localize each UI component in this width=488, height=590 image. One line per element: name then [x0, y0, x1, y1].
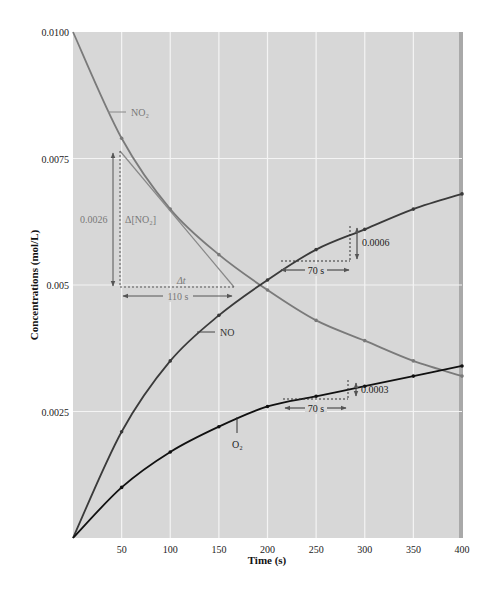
y-tick-label: 0.0075: [42, 154, 70, 165]
data-point: [120, 136, 124, 140]
delta-no2-label: Δ[NO₂]: [125, 214, 156, 225]
data-point: [460, 192, 464, 196]
data-point: [120, 486, 124, 490]
x-tick-label: 400: [455, 544, 470, 555]
x-tick-label: 350: [406, 544, 421, 555]
data-point: [266, 278, 270, 282]
data-point: [168, 359, 172, 363]
data-point: [412, 207, 416, 211]
data-point: [314, 248, 318, 252]
data-point: [460, 364, 464, 368]
x-axis-ticks: 50100150200250300350400: [117, 544, 470, 555]
y-axis-label: Concentrations (mol/L): [28, 230, 41, 341]
x-axis-label: Time (s): [248, 554, 287, 567]
delta-t-label: Δt: [176, 275, 186, 286]
y-tick-label: 0.0100: [42, 27, 70, 38]
data-point: [120, 430, 124, 434]
delta-no2-value: 0.0026: [80, 214, 108, 225]
data-point: [266, 288, 270, 292]
x-tick-label: 150: [211, 544, 226, 555]
no2-series-label: NO₂: [131, 107, 149, 118]
no2-time-interval: 110 s: [167, 291, 188, 302]
data-point: [314, 395, 318, 399]
o2-series-label: O₂: [232, 439, 243, 450]
x-tick-label: 250: [309, 544, 324, 555]
y-tick-label: 0.005: [47, 280, 70, 291]
no-time-interval: 70 s: [308, 265, 325, 276]
x-tick-label: 300: [357, 544, 372, 555]
o2-time-interval: 70 s: [308, 403, 325, 414]
data-point: [217, 314, 221, 318]
concentration-time-chart: 0.00250.0050.00750.0100 5010015020025030…: [0, 0, 488, 590]
data-point: [217, 253, 221, 257]
data-point: [168, 450, 172, 454]
data-point: [363, 228, 367, 232]
data-point: [460, 374, 464, 378]
x-tick-label: 50: [117, 544, 127, 555]
data-point: [266, 405, 270, 409]
data-point: [363, 339, 367, 343]
data-point: [412, 359, 416, 363]
no-series-label: NO: [220, 327, 234, 338]
y-tick-label: 0.0025: [42, 407, 70, 418]
data-point: [217, 425, 221, 429]
data-point: [412, 374, 416, 378]
data-point: [314, 319, 318, 323]
y-axis-ticks: 0.00250.0050.00750.0100: [42, 27, 70, 418]
x-tick-label: 100: [163, 544, 178, 555]
delta-no-value: 0.0006: [362, 237, 390, 248]
delta-o2-value: 0.0003: [361, 384, 389, 395]
